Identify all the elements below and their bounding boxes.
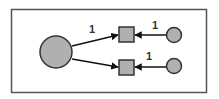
diagram-canvas: 1 1 1	[0, 0, 219, 99]
bottom-square-node	[119, 60, 134, 75]
big-circle-node	[40, 36, 72, 68]
edge-label-small-bottom: 1	[146, 50, 152, 62]
edge-label-small-top: 1	[152, 19, 158, 31]
top-square-node	[119, 27, 134, 42]
edge-label-big-to-top: 1	[89, 23, 95, 35]
top-small-circle-node	[167, 28, 182, 43]
bottom-small-circle-node	[167, 59, 182, 74]
